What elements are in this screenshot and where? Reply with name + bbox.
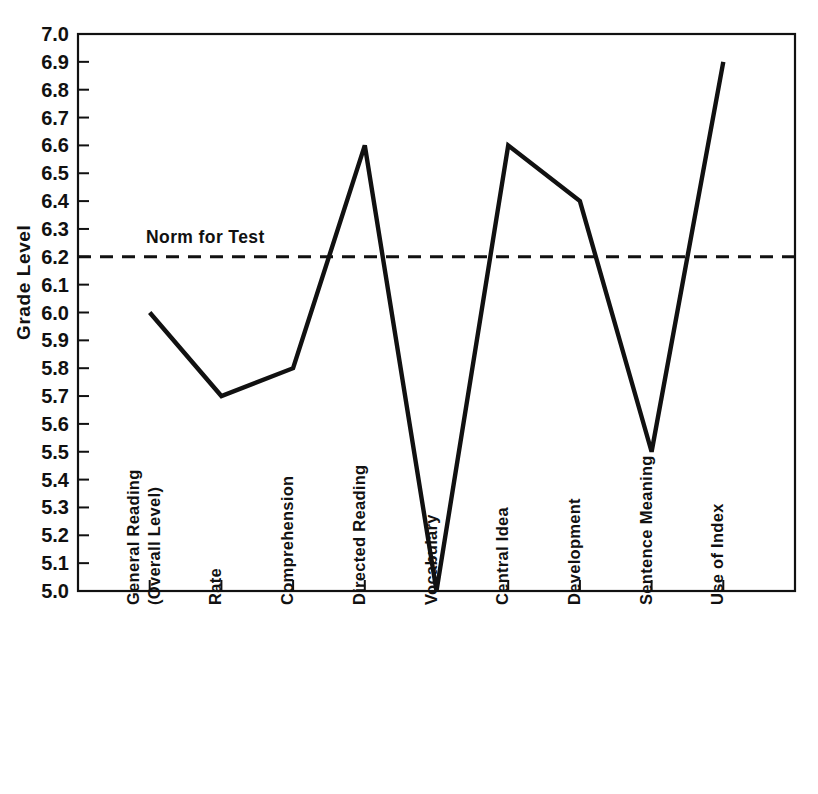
y-axis-title: Grade Level bbox=[13, 225, 34, 340]
y-tick-label: 6.6 bbox=[41, 134, 69, 156]
y-tick-label: 5.0 bbox=[41, 580, 69, 602]
y-tick-label: 5.2 bbox=[41, 524, 69, 546]
chart-background bbox=[0, 0, 818, 794]
y-tick-label: 6.7 bbox=[41, 107, 69, 129]
x-tick-label: Comprehension bbox=[278, 476, 296, 606]
x-tick-label: Sentence Meaning bbox=[637, 455, 655, 605]
grade-level-line-chart: Grade Level 7.06.96.86.76.66.56.46.36.26… bbox=[0, 0, 818, 794]
y-tick-label: 5.7 bbox=[41, 385, 69, 407]
x-tick-label: Rate bbox=[206, 568, 224, 605]
x-tick-label: Use of Index bbox=[708, 503, 726, 605]
y-tick-label: 5.1 bbox=[41, 552, 69, 574]
y-tick-label: 6.0 bbox=[41, 302, 69, 324]
y-tick-label: 6.2 bbox=[41, 246, 69, 268]
norm-line-label: Norm for Test bbox=[146, 227, 265, 247]
y-tick-label: 6.8 bbox=[41, 79, 69, 101]
x-tick-label: (Overall Level) bbox=[145, 487, 163, 605]
y-tick-label: 5.9 bbox=[41, 329, 69, 351]
x-tick-label: General Reading bbox=[124, 469, 142, 605]
y-tick-label: 5.5 bbox=[41, 441, 69, 463]
y-tick-label: 5.6 bbox=[41, 413, 69, 435]
y-tick-label: 6.3 bbox=[41, 218, 69, 240]
y-tick-label: 5.4 bbox=[41, 469, 70, 491]
chart-container: Grade Level 7.06.96.86.76.66.56.46.36.26… bbox=[0, 0, 818, 794]
y-tick-label: 6.4 bbox=[41, 190, 70, 212]
x-tick-label: Directed Reading bbox=[350, 465, 368, 606]
y-tick-label: 5.8 bbox=[41, 357, 69, 379]
y-tick-label: 7.0 bbox=[41, 23, 69, 45]
y-tick-label: 6.9 bbox=[41, 51, 69, 73]
x-tick-label: Central Idea bbox=[493, 506, 511, 605]
y-tick-label: 6.1 bbox=[41, 274, 69, 296]
x-tick-label: Development bbox=[565, 498, 583, 605]
y-tick-label: 5.3 bbox=[41, 496, 69, 518]
y-tick-label: 6.5 bbox=[41, 162, 69, 184]
